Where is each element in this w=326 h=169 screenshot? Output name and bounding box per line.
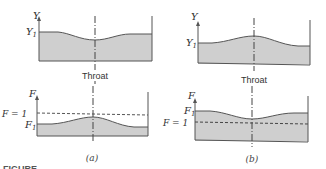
f-axis-label: F — [187, 90, 196, 101]
caption-a: (a) — [86, 153, 99, 163]
figure-canvas: Y Y1 Throat F F = 1 F1 (a) Y Y1 Throat — [0, 0, 326, 169]
figure-label: FIGURE — [3, 164, 37, 169]
y-axis-label: Y — [191, 11, 199, 22]
f1-label: F1 — [24, 119, 36, 132]
panel-b-depth — [196, 18, 310, 71]
caption-b: (b) — [246, 154, 259, 164]
f1-label: F1 — [183, 105, 195, 118]
y1-label: Y1 — [26, 26, 37, 39]
y1-label: Y1 — [186, 37, 197, 50]
throat-label: Throat — [82, 71, 109, 81]
panel-b-froude — [193, 86, 308, 147]
panel-a-froude — [35, 86, 148, 142]
throat-label: Throat — [241, 75, 268, 85]
f-axis-label: F — [28, 88, 37, 99]
critical-froude-label: F = 1 — [162, 118, 188, 128]
critical-froude-label: F = 1 — [1, 109, 27, 119]
